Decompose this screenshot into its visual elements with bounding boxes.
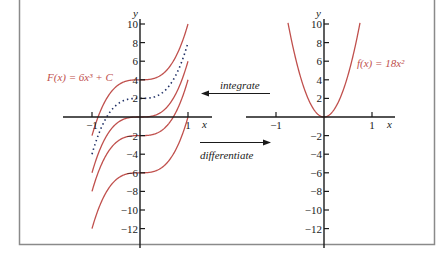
x-tick-label: −1 <box>86 119 98 131</box>
y-tick-label: −12 <box>121 223 138 235</box>
differentiate-arrowhead-icon <box>263 140 271 146</box>
integrate-label: integrate <box>220 79 260 91</box>
y-tick-label: 8 <box>133 37 139 49</box>
y-tick-label: −6 <box>310 167 322 179</box>
right-x-axis-label: x <box>386 118 392 130</box>
left-graph: 108642−2−4−6−8−10−12 −11 y x F(x) = 6x³ … <box>46 7 212 248</box>
y-tick-label: 2 <box>133 92 139 104</box>
figure: 108642−2−4−6−8−10−12 −11 y x F(x) = 6x³ … <box>0 0 437 258</box>
y-tick-label: −6 <box>126 167 138 179</box>
y-tick-label: −8 <box>310 185 322 197</box>
y-tick-label: 8 <box>317 37 323 49</box>
y-tick-label: −2 <box>126 130 138 142</box>
integrate-arrowhead-icon <box>201 91 209 97</box>
y-tick-label: 4 <box>317 74 323 86</box>
y-tick-label: 10 <box>127 18 139 30</box>
differentiate-label: differentiate <box>200 149 253 161</box>
y-tick-label: −10 <box>121 204 139 216</box>
y-tick-label: −4 <box>310 148 322 160</box>
left-y-axis-label: y <box>132 7 138 19</box>
y-tick-label: 10 <box>311 18 323 30</box>
x-tick-label: 1 <box>369 119 375 131</box>
y-tick-label: −12 <box>305 223 322 235</box>
right-function-label: f(x) = 18x² <box>357 57 405 70</box>
right-y-axis-label: y <box>315 7 321 19</box>
y-tick-label: −8 <box>126 185 138 197</box>
y-tick-label: 6 <box>317 55 323 67</box>
left-function-label: F(x) = 6x³ + C <box>46 71 113 84</box>
x-tick-label: −1 <box>270 119 282 131</box>
y-tick-label: 6 <box>133 55 139 67</box>
y-tick-label: −2 <box>310 130 322 142</box>
y-tick-label: −4 <box>126 148 138 160</box>
x-tick-label: 1 <box>185 119 191 131</box>
right-graph: 108642−2−4−6−8−10−12 −11 y x f(x) = 18x² <box>246 7 405 248</box>
y-tick-label: −10 <box>305 204 323 216</box>
left-y-ticks: 108642−2−4−6−8−10−12 <box>121 18 145 235</box>
y-tick-label: 2 <box>317 92 323 104</box>
right-x-ticks: −11 <box>270 112 375 131</box>
left-x-axis-label: x <box>201 118 207 130</box>
right-y-ticks: 108642−2−4−6−8−10−12 <box>305 18 329 235</box>
y-tick-label: 4 <box>133 74 139 86</box>
arrows: integrate differentiate <box>200 79 271 161</box>
